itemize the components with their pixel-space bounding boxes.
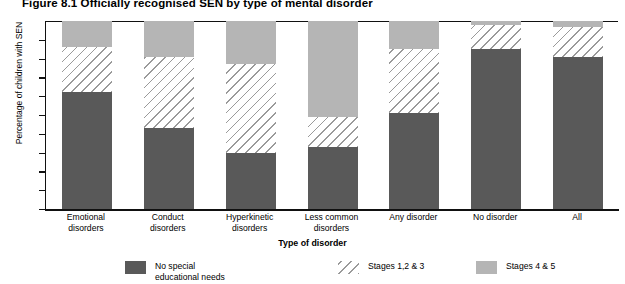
bar-stack[interactable] bbox=[226, 21, 276, 209]
bar-segment[interactable] bbox=[471, 25, 521, 49]
bar-segment[interactable] bbox=[553, 57, 603, 209]
bars-container bbox=[46, 22, 618, 209]
bar-stack[interactable] bbox=[471, 21, 521, 209]
x-tick-label: No disorder bbox=[454, 212, 536, 223]
bar-segment[interactable] bbox=[226, 21, 276, 64]
x-axis-title: Type of disorder bbox=[0, 238, 625, 248]
x-tick-label: Emotionaldisorders bbox=[45, 212, 127, 233]
legend-label: Stages 4 & 5 bbox=[506, 261, 555, 272]
chart-legend: No specialeducational needsStages 1,2 & … bbox=[0, 258, 625, 284]
x-tick-label: Any disorder bbox=[372, 212, 454, 223]
legend-item[interactable]: Stages 4 & 5 bbox=[476, 261, 555, 274]
bar-stack[interactable] bbox=[553, 21, 603, 209]
x-axis-line bbox=[45, 209, 619, 211]
x-tick-label: Hyperkineticdisorders bbox=[209, 212, 291, 233]
bar-segment[interactable] bbox=[308, 117, 358, 147]
bar-segment[interactable] bbox=[62, 92, 112, 209]
bar-stack[interactable] bbox=[308, 21, 358, 209]
bar-segment[interactable] bbox=[389, 113, 439, 209]
legend-label: Stages 1,2 & 3 bbox=[368, 261, 424, 272]
bar-segment[interactable] bbox=[62, 21, 112, 47]
light-solid-swatch bbox=[476, 261, 497, 274]
bar-stack[interactable] bbox=[62, 21, 112, 209]
plot-area bbox=[45, 21, 618, 209]
chart-title: Figure 8.1 Officially recognised SEN by … bbox=[22, 0, 373, 9]
bar-segment[interactable] bbox=[308, 147, 358, 209]
bar-stack[interactable] bbox=[389, 21, 439, 209]
bar-stack[interactable] bbox=[144, 21, 194, 209]
bar-segment[interactable] bbox=[308, 21, 358, 117]
dark-solid-swatch bbox=[125, 261, 146, 274]
bar-segment[interactable] bbox=[389, 21, 439, 49]
y-axis-title: Percentage of children with SEN bbox=[14, 0, 24, 178]
bar-segment[interactable] bbox=[389, 49, 439, 113]
legend-label: No specialeducational needs bbox=[155, 261, 225, 282]
legend-item[interactable]: Stages 1,2 & 3 bbox=[338, 261, 424, 274]
x-tick-label: Less commondisorders bbox=[291, 212, 373, 233]
bar-segment[interactable] bbox=[553, 27, 603, 57]
legend-item[interactable]: No specialeducational needs bbox=[125, 261, 225, 282]
x-tick-label: All bbox=[536, 212, 618, 223]
x-tick-label: Conductdisorders bbox=[127, 212, 209, 233]
bar-segment[interactable] bbox=[226, 153, 276, 209]
bar-segment[interactable] bbox=[144, 57, 194, 128]
bar-segment[interactable] bbox=[144, 128, 194, 209]
bar-segment[interactable] bbox=[471, 49, 521, 209]
hatched-swatch bbox=[338, 261, 359, 274]
bar-segment[interactable] bbox=[144, 21, 194, 57]
bar-segment[interactable] bbox=[62, 47, 112, 92]
bar-segment[interactable] bbox=[226, 64, 276, 152]
